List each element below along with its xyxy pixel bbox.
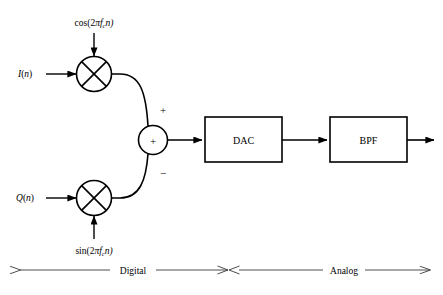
summing-junction-symbol: + — [150, 135, 156, 147]
top-branch-connector — [112, 74, 148, 126]
dac-block[interactable]: DAC — [205, 117, 282, 162]
analog-label: Analog — [330, 266, 358, 276]
summer-minus-port-sign: − — [160, 167, 166, 179]
cos-carrier-label-group: cos(2πfcn) — [75, 18, 114, 29]
diagram-canvas: cos(2πfcn) I(n) + Q(n) — [0, 0, 443, 295]
i-input-label: I(n) — [17, 69, 32, 80]
dac-block-label: DAC — [233, 135, 254, 146]
cos-carrier-label: cos(2πfcn) — [75, 18, 114, 29]
domain-bar: Digital Analog — [20, 266, 430, 276]
bottom-branch-connector — [112, 154, 148, 198]
iq-modulator-diagram: cos(2πfcn) I(n) + Q(n) — [0, 0, 443, 295]
sin-carrier-label: sin(2πfcn) — [75, 246, 112, 257]
mixer-top[interactable] — [77, 57, 112, 92]
sin-carrier-label-group: sin(2πfcn) — [75, 246, 112, 257]
mixer-bottom[interactable] — [77, 181, 112, 216]
summing-junction[interactable]: + — [139, 126, 168, 155]
q-input-label: Q(n) — [16, 193, 34, 204]
digital-label: Digital — [120, 266, 147, 276]
analog-span-left-arrowhead — [229, 266, 240, 274]
bpf-block[interactable]: BPF — [330, 117, 407, 162]
summer-plus-port-sign: + — [160, 104, 166, 116]
bpf-block-label: BPF — [360, 135, 378, 146]
